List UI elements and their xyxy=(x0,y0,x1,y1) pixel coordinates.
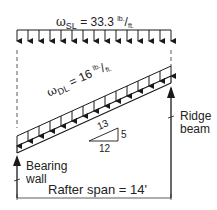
snow-load-label: ωSL = 33.3 lb./ft. xyxy=(56,12,134,33)
span-label: Rafter span = 14' xyxy=(48,183,147,196)
ridge-beam-label: Ridge beam xyxy=(180,110,211,136)
slope-run-label: 12 xyxy=(99,142,110,155)
slope-rise-label: 5 xyxy=(121,128,127,141)
